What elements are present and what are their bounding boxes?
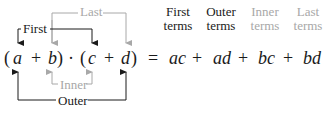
product-ac: ac — [169, 49, 186, 67]
header-line1: Last — [286, 5, 330, 19]
close-paren-1: ) — [57, 49, 63, 67]
header-first-terms: First terms — [156, 5, 200, 33]
open-paren-1: ( — [4, 49, 10, 67]
plus-1: + — [31, 49, 41, 67]
header-line2: terms — [199, 19, 243, 33]
plus-3: + — [192, 49, 202, 67]
last-label: Last — [80, 5, 102, 18]
plus-5: + — [283, 49, 293, 67]
header-line1: First — [156, 5, 200, 19]
outer-label: Outer — [58, 94, 88, 107]
product-ad: ad — [213, 49, 231, 67]
header-line1: Inner — [243, 5, 287, 19]
header-outer-terms: Outer terms — [199, 5, 243, 33]
product-bd: bd — [303, 49, 321, 67]
header-inner-terms: Inner terms — [243, 5, 287, 33]
plus-2: + — [104, 49, 114, 67]
close-paren-2: ) — [131, 49, 137, 67]
plus-4: + — [238, 49, 248, 67]
header-line2: terms — [156, 19, 200, 33]
first-label: First — [23, 22, 47, 35]
open-paren-2: ( — [80, 49, 86, 67]
header-line2: terms — [286, 19, 330, 33]
multiply-dot: · — [68, 49, 74, 67]
term-c: c — [88, 49, 96, 67]
equals-sign: = — [148, 49, 158, 67]
term-b: b — [48, 49, 57, 67]
product-bc: bc — [258, 49, 275, 67]
header-line1: Outer — [199, 5, 243, 19]
inner-label: Inner — [60, 78, 87, 91]
header-line2: terms — [243, 19, 287, 33]
term-d: d — [121, 49, 130, 67]
header-last-terms: Last terms — [286, 5, 330, 33]
term-a: a — [13, 49, 22, 67]
